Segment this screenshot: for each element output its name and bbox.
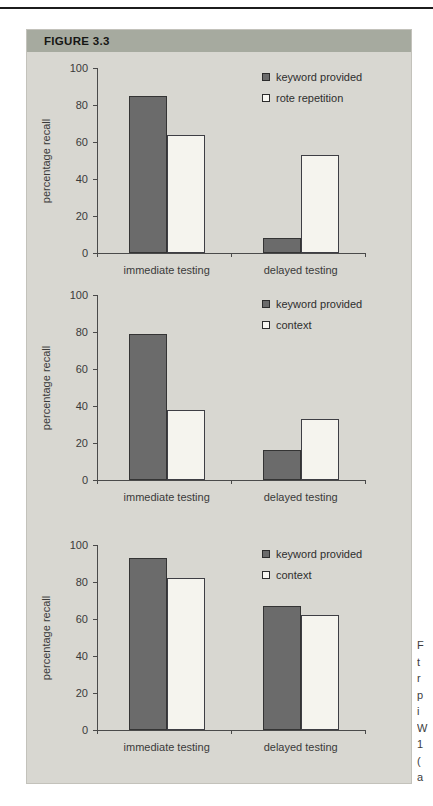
- y-tick-label: 20: [27, 437, 88, 449]
- x-category-label: immediate testing: [102, 741, 232, 753]
- bar-dark-delayed: [263, 238, 301, 253]
- y-tick-label: 60: [27, 136, 88, 148]
- caption-line: p: [417, 687, 433, 704]
- x-category-label: immediate testing: [102, 491, 232, 503]
- bar-light-immediate: [167, 135, 205, 253]
- y-tick-label: 80: [27, 576, 88, 588]
- y-tick-label: 60: [27, 363, 88, 375]
- legend-label: context: [276, 569, 311, 581]
- x-category-label: delayed testing: [236, 264, 366, 276]
- legend-item: keyword provided: [262, 70, 362, 83]
- y-tick-label: 80: [27, 99, 88, 111]
- caption-line: F: [417, 637, 433, 654]
- legend: keyword providedcontext: [262, 547, 362, 589]
- caption-fragments-column: FtrpiW1(a: [417, 637, 433, 806]
- y-tick-label: 100: [27, 62, 88, 74]
- x-tick-mark: [97, 253, 98, 257]
- caption-line: r: [417, 670, 433, 687]
- chart-1: percentage recall100806040200immediate t…: [27, 60, 411, 287]
- bar-light-delayed: [301, 419, 339, 480]
- y-tick-label: 60: [27, 613, 88, 625]
- bar-dark-immediate: [129, 334, 167, 480]
- figure-panel: FIGURE 3.3 percentage recall100806040200…: [27, 30, 411, 783]
- legend-swatch-dark: [262, 550, 270, 558]
- x-tick-mark: [231, 253, 232, 257]
- legend-item: context: [262, 568, 362, 581]
- y-tick-label: 20: [27, 210, 88, 222]
- x-category-label: delayed testing: [236, 491, 366, 503]
- x-tick-mark: [365, 480, 366, 484]
- x-tick-mark: [97, 480, 98, 484]
- figure-header: FIGURE 3.3: [27, 30, 411, 52]
- bar-dark-delayed: [263, 606, 301, 730]
- legend: keyword providedcontext: [262, 297, 362, 339]
- y-tick-label: 0: [27, 724, 88, 736]
- y-axis-label: percentage recall: [40, 595, 52, 679]
- y-tick-label: 40: [27, 173, 88, 185]
- chart-3: percentage recall100806040200immediate t…: [27, 537, 411, 764]
- y-axis-label: percentage recall: [40, 118, 52, 202]
- y-axis-line: [97, 545, 98, 731]
- bar-dark-delayed: [263, 450, 301, 480]
- x-tick-mark: [97, 730, 98, 734]
- x-tick-mark: [231, 480, 232, 484]
- caption-line: a: [417, 769, 433, 786]
- legend-item: keyword provided: [262, 297, 362, 310]
- legend-swatch-dark: [262, 300, 270, 308]
- x-category-label: immediate testing: [102, 264, 232, 276]
- figure-label: FIGURE 3.3: [44, 35, 110, 47]
- legend-label: keyword provided: [276, 298, 362, 310]
- x-tick-mark: [365, 253, 366, 257]
- y-axis-line: [97, 68, 98, 254]
- bar-light-delayed: [301, 155, 339, 253]
- chart-2: percentage recall100806040200immediate t…: [27, 287, 411, 514]
- legend-swatch-light: [262, 94, 270, 102]
- legend: keyword providedrote repetition: [262, 70, 362, 112]
- legend-item: rote repetition: [262, 91, 362, 104]
- bar-light-delayed: [301, 615, 339, 730]
- charts-container: percentage recall100806040200immediate t…: [27, 52, 411, 764]
- caption-line: (: [417, 753, 433, 770]
- y-tick-label: 0: [27, 247, 88, 259]
- legend-swatch-light: [262, 321, 270, 329]
- y-axis-line: [97, 295, 98, 481]
- legend-swatch-dark: [262, 73, 270, 81]
- x-tick-mark: [231, 730, 232, 734]
- y-axis-label: percentage recall: [40, 345, 52, 429]
- caption-line: 1: [417, 736, 433, 753]
- legend-label: context: [276, 319, 311, 331]
- y-tick-label: 100: [27, 289, 88, 301]
- legend-item: context: [262, 318, 362, 331]
- caption-line: t: [417, 654, 433, 671]
- bar-dark-immediate: [129, 558, 167, 730]
- legend-item: keyword provided: [262, 547, 362, 560]
- x-tick-mark: [365, 730, 366, 734]
- caption-line: W: [417, 720, 433, 737]
- legend-swatch-light: [262, 571, 270, 579]
- y-tick-label: 100: [27, 539, 88, 551]
- y-tick-label: 40: [27, 650, 88, 662]
- bar-light-immediate: [167, 410, 205, 480]
- page-top-rule: [0, 7, 433, 9]
- y-tick-label: 0: [27, 474, 88, 486]
- bar-dark-immediate: [129, 96, 167, 253]
- y-tick-label: 20: [27, 687, 88, 699]
- y-tick-label: 40: [27, 400, 88, 412]
- x-category-label: delayed testing: [236, 741, 366, 753]
- legend-label: keyword provided: [276, 71, 362, 83]
- legend-label: rote repetition: [276, 92, 343, 104]
- legend-label: keyword provided: [276, 548, 362, 560]
- bar-light-immediate: [167, 578, 205, 730]
- y-tick-label: 80: [27, 326, 88, 338]
- caption-line: i: [417, 703, 433, 720]
